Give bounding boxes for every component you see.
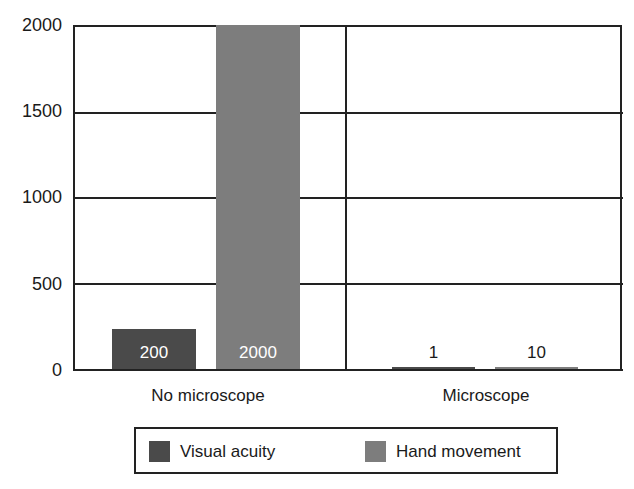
bar-no-microscope-hand-movement: 2000 (216, 25, 300, 370)
legend-item-hand-movement: Hand movement (365, 441, 521, 462)
x-axis-baseline (73, 369, 623, 371)
legend-label: Hand movement (396, 442, 521, 462)
legend-item-visual-acuity: Visual acuity (149, 441, 275, 462)
gridline-1500 (73, 112, 623, 114)
y-tick-0: 0 (0, 361, 62, 379)
data-label: 200 (112, 343, 196, 363)
data-label: 1 (392, 343, 475, 363)
legend: Visual acuity Hand movement (134, 427, 558, 474)
y-tick-2000: 2000 (0, 16, 62, 34)
legend-label: Visual acuity (180, 442, 275, 462)
category-divider (345, 25, 347, 371)
legend-swatch-hand-movement (365, 441, 386, 462)
y-tick-1500: 1500 (0, 102, 62, 120)
category-label-no-microscope: No microscope (98, 386, 318, 406)
bar-no-microscope-visual-acuity: 200 (112, 329, 196, 370)
gridline-500 (73, 283, 623, 285)
y-tick-1000: 1000 (0, 188, 62, 206)
category-label-microscope: Microscope (376, 386, 596, 406)
data-label: 10 (495, 343, 578, 363)
y-tick-500: 500 (0, 275, 62, 293)
gridline-1000 (73, 197, 623, 199)
legend-swatch-visual-acuity (149, 441, 170, 462)
data-label: 2000 (216, 343, 300, 363)
